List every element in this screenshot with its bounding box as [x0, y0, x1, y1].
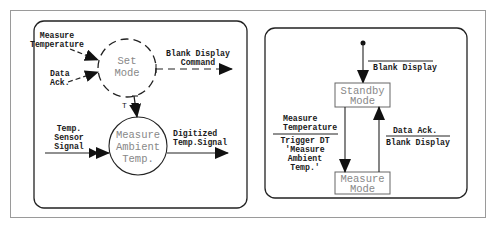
flow-digitized-temp-signal: Digitized Temp.Signal — [167, 129, 228, 153]
set-mode-label-1: Set — [118, 55, 137, 67]
measure-ambient-label-1: Measure — [116, 129, 160, 141]
measure-temperature-label-2: Temperature — [30, 40, 84, 49]
measure-to-standby-action: Blank Display — [386, 138, 450, 147]
blank-display-command-label-2: Command — [181, 58, 215, 67]
data-ack-label-1: Data — [50, 69, 70, 78]
process-measure-ambient-temp[interactable]: Measure Ambient Temp. — [109, 117, 167, 175]
measure-ambient-label-2: Ambient — [116, 141, 160, 153]
flow-temp-sensor-signal: Temp. Sensor Signal — [45, 124, 109, 158]
standby-to-measure-action-1: Trigger DT — [280, 136, 329, 145]
trigger-label: T — [122, 101, 127, 110]
temp-sensor-label-2: Sensor — [54, 133, 84, 142]
flow-data-ack: Data Ack. — [50, 69, 98, 87]
measure-temperature-label-1: Measure — [40, 31, 74, 40]
state-measure-mode[interactable]: Measure Mode — [335, 172, 390, 195]
standby-to-measure-event-2: Temperature — [283, 123, 337, 132]
right-panel-state-diagram: Blank Display Standby Mode Measure Mode … — [265, 28, 467, 198]
temp-sensor-label-1: Temp. — [57, 124, 82, 133]
standby-to-measure-action-4: Temp.' — [290, 163, 319, 172]
data-ack-label-2: Ack. — [50, 78, 70, 87]
state-standby-mode[interactable]: Standby Mode — [335, 83, 390, 107]
digitized-label-2: Temp.Signal — [173, 138, 227, 147]
initial-action-label: Blank Display — [373, 63, 437, 72]
diagram-canvas: Set Mode Measure Ambient Temp. Measure T… — [0, 0, 495, 227]
transition-initial: Blank Display — [361, 41, 437, 84]
digitized-label-1: Digitized — [173, 129, 217, 138]
standby-to-measure-action-3: Ambient — [288, 154, 322, 163]
process-set-mode[interactable]: Set Mode — [98, 39, 156, 97]
measure-mode-label-2: Mode — [350, 183, 375, 195]
transition-measure-to-standby: Data Ack. Blank Display — [379, 107, 450, 172]
transition-standby-to-measure: Measure Temperature Trigger DT 'Measure … — [273, 107, 345, 172]
standby-to-measure-event-1: Measure — [283, 114, 317, 123]
measure-ambient-label-3: Temp. — [122, 153, 154, 165]
left-panel-dataflow: Set Mode Measure Ambient Temp. Measure T… — [30, 21, 247, 208]
blank-display-command-label-1: Blank Display — [166, 49, 230, 58]
flow-measure-temperature: Measure Temperature — [30, 31, 98, 60]
measure-to-standby-event: Data Ack. — [393, 126, 437, 135]
standby-to-measure-action-2: 'Measure — [285, 145, 324, 154]
temp-sensor-label-3: Signal — [54, 142, 84, 151]
flow-trigger: T — [122, 96, 139, 117]
flow-blank-display-command: Blank Display Command — [156, 49, 232, 73]
set-mode-label-2: Mode — [114, 67, 139, 79]
standby-label-2: Mode — [350, 95, 375, 107]
